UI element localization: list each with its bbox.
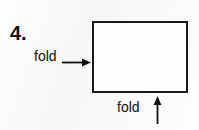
item-number: 4. <box>10 23 27 43</box>
worksheet-figure-canvas: 4. fold fold <box>0 0 199 130</box>
arrow-right-icon <box>62 53 91 62</box>
fold-label-left: fold <box>34 49 57 64</box>
fold-label-bottom: fold <box>117 100 140 115</box>
paper-rectangle <box>92 21 188 93</box>
arrow-up-icon <box>151 96 164 124</box>
